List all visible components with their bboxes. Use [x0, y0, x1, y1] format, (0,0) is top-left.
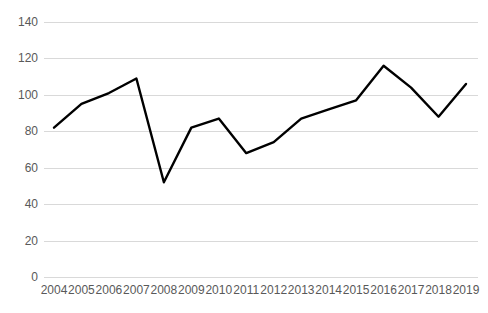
x-axis-tick-label: 2004 — [41, 283, 68, 297]
y-axis-tick-label: 0 — [6, 271, 38, 283]
x-axis-tick-label: 2005 — [68, 283, 95, 297]
plot-area — [44, 22, 478, 277]
x-axis-tick-label: 2010 — [205, 283, 232, 297]
y-axis-tick-label: 20 — [6, 235, 38, 247]
y-axis-tick-label: 60 — [6, 162, 38, 174]
gridline — [44, 277, 478, 278]
x-axis-tick-label: 2007 — [123, 283, 150, 297]
y-axis-tick-label: 100 — [6, 89, 38, 101]
x-axis-tick-label: 2016 — [370, 283, 397, 297]
x-axis-tick-label: 2014 — [315, 283, 342, 297]
x-axis-tick-label: 2018 — [425, 283, 452, 297]
y-axis-tick-label: 120 — [6, 52, 38, 64]
x-axis-tick-label: 2011 — [233, 283, 259, 297]
y-axis-tick-label: 40 — [6, 198, 38, 210]
y-axis-tick-label: 80 — [6, 125, 38, 137]
x-axis-tick-label: 2019 — [453, 283, 480, 297]
x-axis-tick-label: 2012 — [260, 283, 287, 297]
line-chart: 020406080100120140 200420052006200720082… — [0, 0, 488, 313]
x-axis-tick-label: 2017 — [398, 283, 425, 297]
x-axis-tick-label: 2009 — [178, 283, 205, 297]
y-axis-tick-label: 140 — [6, 16, 38, 28]
x-axis-tick-label: 2013 — [288, 283, 315, 297]
x-axis-tick-label: 2015 — [343, 283, 370, 297]
x-axis-tick-label: 2008 — [151, 283, 178, 297]
series-line-series-1 — [54, 66, 466, 183]
series-line-group — [44, 22, 478, 277]
x-axis: 2004200520062007200820092010201120122013… — [44, 283, 478, 303]
x-axis-tick-label: 2006 — [96, 283, 123, 297]
y-axis: 020406080100120140 — [4, 0, 38, 313]
